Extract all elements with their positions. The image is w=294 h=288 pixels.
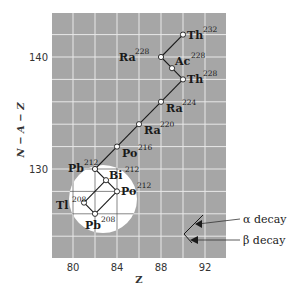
element-symbol: Bi xyxy=(109,169,122,182)
x-axis: 80848892 xyxy=(67,262,212,273)
y-axis: 130140 xyxy=(29,52,48,175)
x-tick-label: 84 xyxy=(111,262,124,273)
x-tick-label: 80 xyxy=(67,262,80,273)
mass-number: 212 xyxy=(84,158,99,167)
mass-number: 212 xyxy=(125,165,140,174)
nuclide-ra228-marker xyxy=(158,54,163,59)
element-symbol: Th xyxy=(187,73,203,86)
mass-number: 212 xyxy=(137,181,152,190)
nuclide-th232-marker xyxy=(180,32,185,37)
element-symbol: Tl xyxy=(56,199,68,212)
y-tick-label: 130 xyxy=(29,164,48,175)
mass-number: 232 xyxy=(203,25,218,34)
nuclide-po212-marker xyxy=(114,189,119,194)
element-symbol: Ra xyxy=(166,102,183,115)
nuclide-bi212-marker xyxy=(103,178,108,183)
element-symbol: Po xyxy=(121,185,136,198)
element-symbol: Th xyxy=(187,29,203,42)
mass-number: 208 xyxy=(101,215,116,224)
x-axis-label: Z xyxy=(135,274,142,285)
element-symbol: Ac xyxy=(174,55,191,68)
y-tick-label: 140 xyxy=(29,52,48,63)
element-symbol: Pb xyxy=(85,219,101,232)
nuclide-pb208-marker xyxy=(92,211,97,216)
mass-number: 228 xyxy=(191,51,206,60)
mass-number: 220 xyxy=(160,120,175,129)
mass-number: 224 xyxy=(182,98,197,107)
mass-number: 228 xyxy=(203,69,218,78)
mass-number: 216 xyxy=(138,143,153,152)
element-symbol: Ra xyxy=(144,124,161,137)
mass-number: 228 xyxy=(135,47,150,56)
legend-beta-label: β decay xyxy=(243,234,286,247)
x-tick-label: 92 xyxy=(199,262,212,273)
nuclide-ra220-marker xyxy=(136,122,141,127)
nuclide-po216-marker xyxy=(114,144,119,149)
x-tick-label: 88 xyxy=(155,262,168,273)
nuclide-th228-marker xyxy=(180,77,185,82)
nuclide-ra224-marker xyxy=(158,99,163,104)
nuclide-ac228-marker xyxy=(169,66,174,71)
element-symbol: Pb xyxy=(68,162,84,175)
y-axis-label: N − A − Z xyxy=(15,102,26,159)
legend-alpha-label: α decay xyxy=(243,213,287,226)
nuclide-pb212-marker xyxy=(92,166,97,171)
element-symbol: Ra xyxy=(119,51,136,64)
mass-number: 208 xyxy=(72,195,87,204)
element-symbol: Po xyxy=(122,147,137,160)
decay-chain-diagram: Th232Ra228Ac228Th228Ra224Ra220Po216Pb212… xyxy=(0,0,294,288)
